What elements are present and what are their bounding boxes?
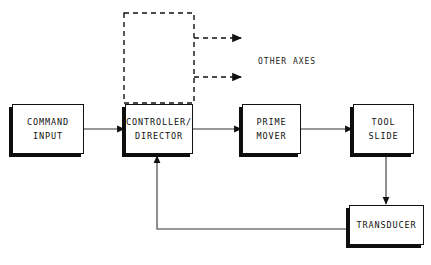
node-tool-slide-line-1: TOOL [371,115,395,129]
node-controller-director-line-1: CONTROLLER/ [126,115,192,129]
node-prime-mover[interactable]: PRIME MOVER [242,104,301,154]
node-prime-mover-line-2: MOVER [256,129,286,143]
node-command-input-line-1: COMMAND [27,115,69,129]
node-controller-director-line-2: DIRECTOR [135,129,183,143]
node-command-input[interactable]: COMMAND INPUT [12,104,84,154]
block-diagram-canvas: COMMAND INPUT CONTROLLER/ DIRECTOR PRIME… [0,0,431,265]
node-prime-mover-line-1: PRIME [256,115,286,129]
node-controller-director[interactable]: CONTROLLER/ DIRECTOR [125,104,193,154]
connector-transducer-feedback [157,156,349,229]
node-tool-slide[interactable]: TOOL SLIDE [353,104,414,154]
label-other-axes: OTHER AXES [258,57,316,66]
dashed-other-axes-group [124,13,194,103]
node-tool-slide-line-2: SLIDE [368,129,398,143]
node-transducer[interactable]: TRANSDUCER [349,205,424,245]
node-command-input-line-2: INPUT [33,129,63,143]
node-transducer-line-1: TRANSDUCER [356,218,416,232]
